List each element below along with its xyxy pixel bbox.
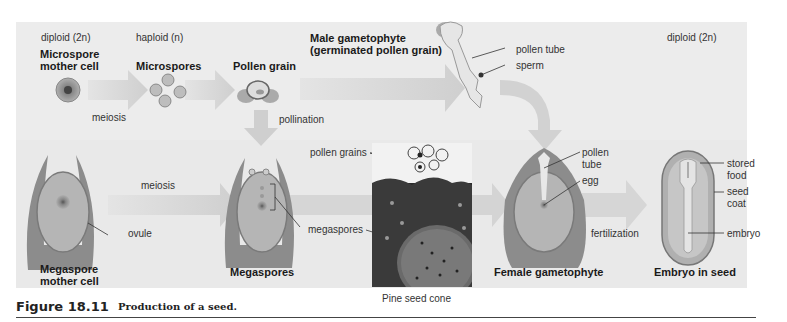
caption-rule (16, 317, 756, 318)
callout-megaspores: megaspores (308, 224, 363, 236)
callout-stored-food: stored food (727, 158, 755, 182)
arrow-pollen-to-male (300, 64, 465, 112)
process-pollination: pollination (279, 114, 324, 126)
label-female-gametophyte: Female gametophyte (494, 266, 603, 278)
callout-female-pollen-tube: pollen tube (582, 147, 609, 171)
label-embryo-in-seed: Embryo in seed (654, 266, 736, 278)
caption-pine-seed-cone: Pine seed cone (382, 293, 451, 305)
callout-pollen-tube: pollen tube (516, 44, 565, 56)
ploidy-right: diploid (2n) (667, 32, 716, 44)
label-megaspore-mother-cell: Megaspore mother cell (40, 263, 99, 287)
arrow-to-micro (290, 195, 372, 215)
figure-title: Production of a seed. (118, 301, 237, 312)
arrow-curve-down (500, 80, 562, 150)
pine-seed-cone-micrograph (372, 143, 472, 287)
ovule-megaspore-mother-cell (27, 155, 108, 270)
callout-embryo: embryo (727, 228, 760, 240)
callout-ovule: ovule (128, 228, 152, 240)
embryo-in-seed (662, 151, 724, 265)
figure-number: Figure 18.11 (16, 299, 109, 314)
arrow-meiosis-top (88, 70, 148, 110)
process-fertilization: fertilization (591, 228, 639, 240)
callout-sperm: sperm (516, 60, 544, 72)
label-male-gametophyte: Male gametophyte (germinated pollen grai… (310, 32, 442, 56)
label-microspores: Microspores (136, 60, 201, 72)
callout-egg: egg (582, 175, 599, 187)
callout-seed-coat: seed coat (727, 186, 749, 210)
ploidy-middle: haploid (n) (136, 32, 183, 44)
arrow-microspores-to-pollen (185, 70, 235, 110)
label-pollen-grain: Pollen grain (233, 60, 296, 72)
callout-pollen-grains: pollen grains (310, 147, 367, 159)
label-megaspores: Megaspores (230, 266, 294, 278)
process-meiosis-top: meiosis (92, 112, 126, 124)
ovule-megaspores (225, 158, 300, 268)
process-meiosis-bottom: meiosis (141, 180, 175, 192)
arrow-pollination (244, 110, 278, 146)
label-microspore-mother-cell: Microspore mother cell (40, 48, 99, 72)
arrow-fertilization (582, 180, 647, 230)
ploidy-left: diploid (2n) (41, 32, 90, 44)
female-gametophyte (504, 148, 586, 268)
